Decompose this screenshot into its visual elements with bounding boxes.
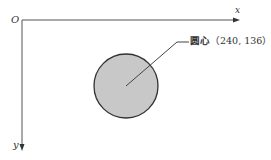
center-label: 圆心 — [190, 35, 210, 46]
coordinate-diagram — [0, 0, 271, 160]
x-axis-arrow — [233, 18, 240, 23]
center-coords: （240, 136） — [210, 35, 271, 46]
y-axis-label: y — [13, 140, 19, 150]
y-axis-arrow — [20, 144, 25, 151]
x-axis-label: x — [235, 6, 240, 15]
center-callout: 圆心（240, 136） — [190, 36, 271, 46]
origin-label: O — [11, 15, 19, 25]
